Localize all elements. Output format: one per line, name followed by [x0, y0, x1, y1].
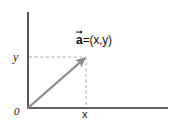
- x-axis-label: x: [82, 109, 88, 120]
- vector-equation-label: a =(x,y): [76, 30, 112, 46]
- vector-diagram: 0 y x a =(x,y): [0, 0, 182, 131]
- vector-symbol-a: a: [76, 33, 83, 47]
- origin-label: 0: [14, 106, 20, 117]
- y-axis-label: y: [13, 51, 18, 63]
- diagram-canvas: [0, 0, 182, 131]
- vector-arrow-a: [29, 59, 85, 108]
- vector-symbol-group: a: [76, 30, 83, 46]
- vector-components-text: =(x,y): [83, 34, 112, 46]
